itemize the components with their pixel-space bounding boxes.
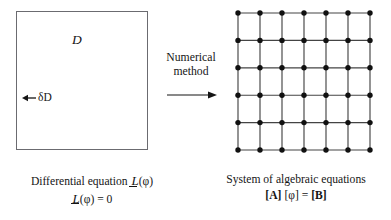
- mesh-node: [345, 10, 350, 15]
- domain-label: D: [72, 33, 82, 47]
- mesh-node: [257, 93, 262, 98]
- left-caption-prefix: Differential equation: [31, 175, 131, 188]
- mesh-node: [301, 38, 306, 43]
- mesh-node: [323, 120, 328, 125]
- mesh-node: [235, 65, 240, 70]
- left-caption: Differential equation L(φ) L(φ) = 0: [4, 172, 180, 208]
- boundary-arrow-icon: [22, 93, 37, 103]
- mesh-node: [235, 93, 240, 98]
- matrix-b-label: [B]: [311, 189, 326, 202]
- operator-script-l-2: L: [72, 191, 80, 206]
- equals-sign: =: [302, 189, 309, 202]
- mesh-node: [345, 120, 350, 125]
- mesh-node: [323, 65, 328, 70]
- mesh-node: [279, 65, 284, 70]
- mesh-node: [235, 10, 240, 15]
- mesh-node: [367, 65, 372, 70]
- mesh-node: [257, 120, 262, 125]
- numerical-method-caption: Numerical method: [155, 51, 227, 80]
- boundary-label: δD: [38, 92, 52, 104]
- mesh-node: [301, 120, 306, 125]
- mesh-node: [257, 10, 262, 15]
- mesh-node: [345, 93, 350, 98]
- continuous-domain-box: [16, 11, 148, 150]
- right-caption-line-2: [A] [φ] = [B]: [204, 188, 388, 204]
- left-caption-line-2: L(φ) = 0: [4, 190, 180, 208]
- boundary-annotation: δD: [22, 91, 52, 105]
- mesh-node: [235, 38, 240, 43]
- mesh-node: [235, 147, 240, 152]
- matrix-a-label: [A]: [265, 189, 281, 202]
- mesh-node: [367, 10, 372, 15]
- mesh-node: [345, 38, 350, 43]
- mesh-node: [367, 120, 372, 125]
- mesh-node: [279, 147, 284, 152]
- mesh-node: [367, 38, 372, 43]
- left-caption-argument: (φ): [139, 175, 153, 188]
- left-caption-equation: (φ) = 0: [80, 193, 113, 206]
- right-caption: System of algebraic equations [A] [φ] = …: [204, 172, 388, 204]
- right-arrow-icon: [167, 89, 217, 101]
- mesh-node: [279, 38, 284, 43]
- mesh-node: [301, 147, 306, 152]
- mesh-node: [279, 120, 284, 125]
- mesh-node: [257, 65, 262, 70]
- numerical-discretization-diagram: D δD Numerical method Differential equat…: [0, 0, 391, 220]
- left-caption-line-1: Differential equation L(φ): [4, 172, 180, 190]
- mesh-node: [301, 93, 306, 98]
- operator-script-l: L: [130, 173, 138, 188]
- numerical-method-line-2: method: [155, 65, 227, 79]
- mesh-node: [301, 65, 306, 70]
- mesh-grid-svg: [232, 7, 378, 155]
- mesh-node: [367, 93, 372, 98]
- numerical-method-line-1: Numerical: [155, 51, 227, 65]
- vector-phi-label: [φ]: [284, 189, 298, 202]
- mesh-node: [345, 65, 350, 70]
- mesh-node: [235, 120, 240, 125]
- right-caption-line-1: System of algebraic equations: [204, 172, 388, 188]
- mesh-node: [323, 10, 328, 15]
- mesh-node: [257, 147, 262, 152]
- mesh-node: [301, 10, 306, 15]
- mesh-node: [345, 147, 350, 152]
- mesh-node: [323, 147, 328, 152]
- mesh-grid: [232, 7, 378, 155]
- mesh-node: [323, 93, 328, 98]
- mesh-node: [279, 93, 284, 98]
- mesh-node: [323, 38, 328, 43]
- mesh-node: [257, 38, 262, 43]
- mesh-node: [367, 147, 372, 152]
- mesh-node: [279, 10, 284, 15]
